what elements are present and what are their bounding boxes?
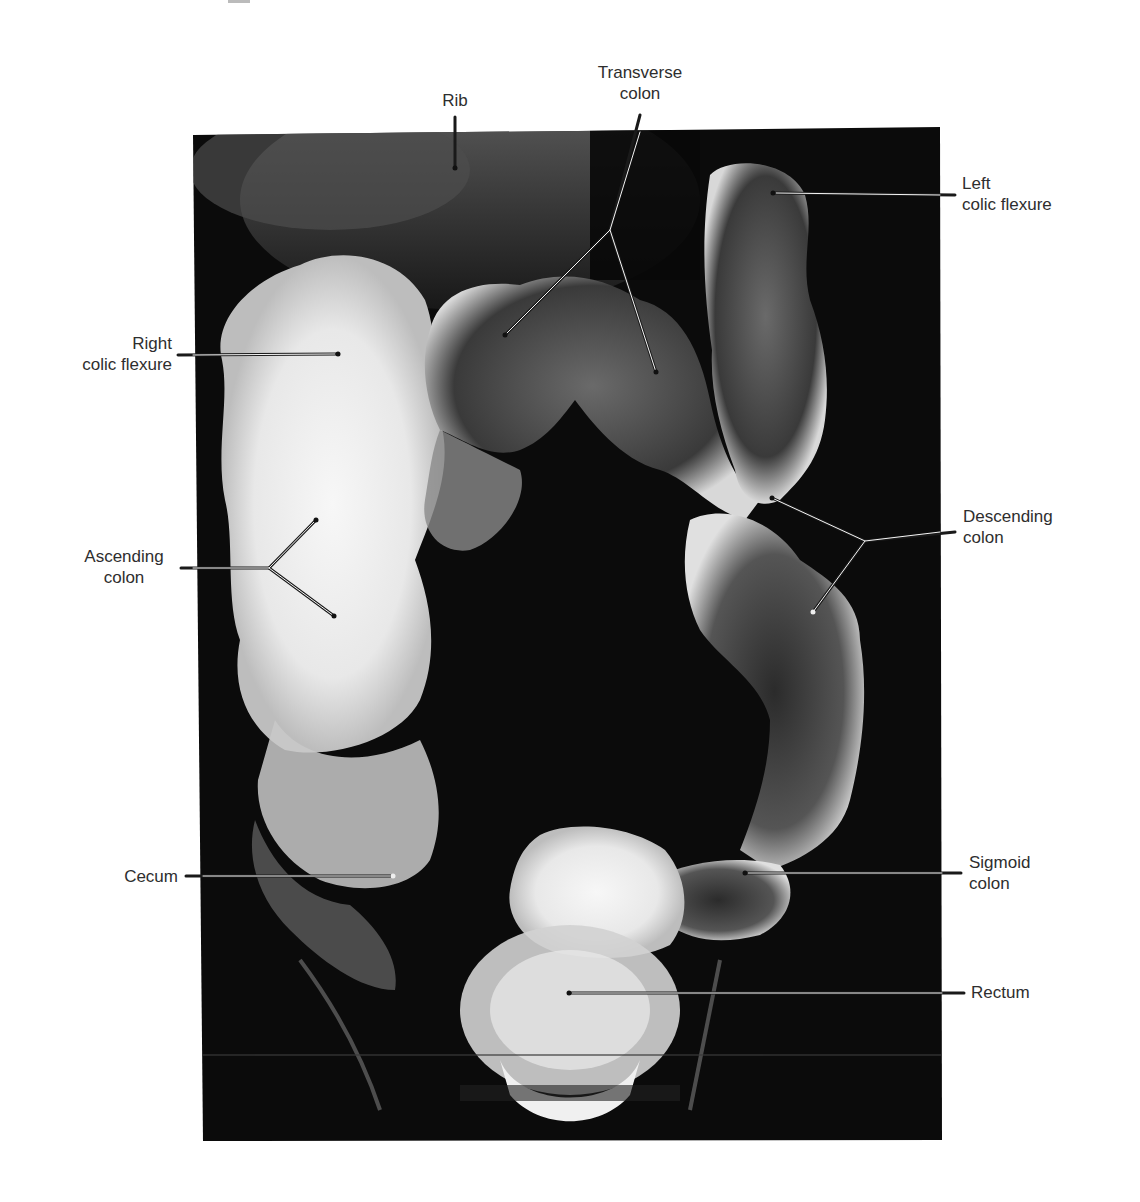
label-sigmoid-colon-line2: colon	[969, 873, 1030, 894]
label-rib: Rib	[432, 90, 478, 111]
transverse-colon-dot-1	[503, 333, 508, 338]
ascending-colon-dot-2	[332, 614, 337, 619]
label-right-colic-flexure: Right colic flexure	[60, 333, 172, 375]
label-ascending-colon-line2: colon	[72, 567, 176, 588]
label-cecum: Cecum	[100, 866, 178, 887]
rectum-dot	[567, 991, 572, 996]
label-transverse-colon-line1: Transverse	[585, 62, 695, 83]
label-left-colic-flexure-line2: colic flexure	[962, 194, 1052, 215]
label-transverse-colon: Transverse colon	[585, 62, 695, 104]
right-colic-flexure-dot	[336, 352, 341, 357]
transverse-colon-dot-2	[654, 370, 659, 375]
label-left-colic-flexure-line1: Left	[962, 173, 1052, 194]
rib-dot	[453, 166, 458, 171]
label-rectum: Rectum	[971, 982, 1030, 1003]
label-cecum-text: Cecum	[100, 866, 178, 887]
cecum-dot	[391, 874, 396, 879]
label-sigmoid-colon-line1: Sigmoid	[969, 852, 1030, 873]
descending-colon-dot-2	[811, 610, 816, 615]
label-transverse-colon-line2: colon	[585, 83, 695, 104]
label-left-colic-flexure: Left colic flexure	[962, 173, 1052, 215]
label-ascending-colon-line1: Ascending	[72, 546, 176, 567]
label-descending-colon: Descending colon	[963, 506, 1053, 548]
label-right-colic-flexure-line2: colic flexure	[60, 354, 172, 375]
label-ascending-colon: Ascending colon	[72, 546, 176, 588]
label-sigmoid-colon: Sigmoid colon	[969, 852, 1030, 894]
label-right-colic-flexure-line1: Right	[60, 333, 172, 354]
label-descending-colon-line1: Descending	[963, 506, 1053, 527]
label-rib-text: Rib	[432, 90, 478, 111]
left-colic-flexure-dot	[771, 191, 776, 196]
descending-colon-dot-1	[770, 496, 775, 501]
sigmoid-colon-dot	[743, 871, 748, 876]
ascending-colon-dot-1	[314, 518, 319, 523]
label-rectum-text: Rectum	[971, 982, 1030, 1003]
label-descending-colon-line2: colon	[963, 527, 1053, 548]
